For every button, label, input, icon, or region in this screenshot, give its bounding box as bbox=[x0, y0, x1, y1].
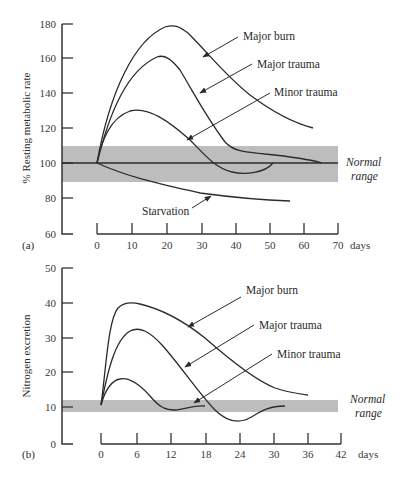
x-tick-30-b: 30 bbox=[269, 448, 281, 460]
label-range-b: range bbox=[355, 407, 382, 420]
y-tick-40: 40 bbox=[45, 297, 57, 309]
y-tick-100: 100 bbox=[40, 157, 57, 169]
x-tick-6-b: 6 bbox=[134, 448, 140, 460]
x-tick-50: 50 bbox=[265, 239, 277, 251]
x-axis-title-a: days bbox=[350, 239, 370, 251]
label-major-trauma-b: Major trauma bbox=[259, 319, 322, 332]
x-tick-10: 10 bbox=[127, 239, 139, 251]
x-tick-18-b: 18 bbox=[201, 448, 213, 460]
label-major-trauma-a: Major trauma bbox=[257, 58, 320, 71]
x-axis-title-b: days bbox=[358, 448, 378, 460]
label-normal-b: Normal bbox=[349, 393, 385, 405]
leader-major-burn-a bbox=[203, 37, 238, 57]
label-normal-a: Normal bbox=[345, 156, 381, 168]
y-tick-80: 80 bbox=[45, 192, 57, 204]
label-minor-trauma-b: Minor trauma bbox=[277, 348, 341, 360]
y-ticks-b bbox=[62, 268, 73, 407]
x-tick-70: 70 bbox=[333, 239, 345, 251]
label-major-burn-b: Major burn bbox=[246, 284, 298, 297]
x-tick-12-b: 12 bbox=[166, 448, 177, 460]
label-starvation-a: Starvation bbox=[142, 205, 190, 217]
leader-major-burn-b bbox=[188, 297, 241, 327]
y-tick-20: 20 bbox=[45, 366, 57, 378]
x-tick-0-b: 0 bbox=[98, 448, 104, 460]
figure: 180 160 140 120 100 80 60 % Resting meta… bbox=[0, 0, 405, 480]
x-axis-a bbox=[97, 223, 338, 234]
y-tick-labels-a: 180 160 140 120 100 80 60 bbox=[40, 18, 57, 240]
x-tick-labels-a: 0 10 20 30 40 50 60 70 days bbox=[94, 239, 370, 251]
y-axis-b bbox=[62, 268, 73, 444]
leader-minor-trauma-a bbox=[187, 93, 270, 140]
x-axis-b bbox=[101, 433, 341, 444]
x-tick-60: 60 bbox=[299, 239, 311, 251]
y-tick-160: 160 bbox=[40, 52, 57, 64]
y-axis-a bbox=[62, 24, 73, 234]
panel-label-a: (a) bbox=[22, 239, 35, 252]
label-minor-trauma-a: Minor trauma bbox=[274, 86, 338, 98]
y-axis-title-b: Nitrogen excretion bbox=[20, 314, 32, 397]
y-tick-180: 180 bbox=[40, 18, 57, 30]
y-tick-120: 120 bbox=[40, 122, 57, 134]
x-tick-0: 0 bbox=[94, 239, 100, 251]
x-tick-labels-b: 0 6 12 18 24 30 36 42 days bbox=[98, 448, 378, 460]
y-tick-labels-b: 50 40 30 20 10 0 bbox=[45, 262, 57, 450]
panel-a-chart: 180 160 140 120 100 80 60 % Resting meta… bbox=[20, 18, 381, 252]
y-tick-10: 10 bbox=[45, 401, 57, 413]
y-tick-140: 140 bbox=[40, 87, 57, 99]
x-tick-24-b: 24 bbox=[235, 448, 247, 460]
panel-b-chart: 50 40 30 20 10 0 Nitrogen excretion 0 6 … bbox=[20, 262, 385, 461]
y-tick-60: 60 bbox=[45, 228, 57, 240]
y-tick-30: 30 bbox=[45, 332, 57, 344]
x-tick-20: 20 bbox=[162, 239, 174, 251]
panel-label-b: (b) bbox=[22, 448, 35, 461]
x-tick-30: 30 bbox=[197, 239, 209, 251]
y-tick-0: 0 bbox=[51, 438, 57, 450]
y-tick-50: 50 bbox=[45, 262, 57, 274]
leader-starvation-a bbox=[192, 196, 211, 208]
leader-major-trauma-a bbox=[200, 64, 252, 93]
x-tick-36-b: 36 bbox=[303, 448, 315, 460]
normal-range-band-a bbox=[62, 146, 338, 182]
label-range-a: range bbox=[351, 170, 378, 183]
x-tick-42-b: 42 bbox=[336, 448, 347, 460]
x-tick-40: 40 bbox=[231, 239, 243, 251]
y-axis-title-a: % Resting metabolic rate bbox=[20, 72, 32, 183]
label-major-burn-a: Major burn bbox=[243, 30, 295, 43]
